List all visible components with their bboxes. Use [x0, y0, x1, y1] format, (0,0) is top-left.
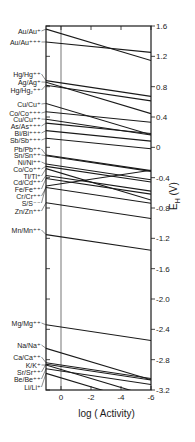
series-label: Bi/Bi⁺⁺⁺ — [15, 130, 41, 137]
series-line — [46, 365, 151, 396]
series-label: Cu/Cu⁺ — [17, 101, 41, 108]
leader-line — [42, 203, 47, 211]
x-axis-label: log ( Activity) — [0, 408, 195, 419]
series-label: S/S⁻⁻ — [22, 200, 41, 207]
y-tick-label: 0.8 — [156, 83, 168, 92]
series-label: Zn/Zn⁺⁺ — [15, 208, 41, 215]
series-line — [46, 203, 151, 219]
series-line — [46, 85, 151, 101]
series-label: Cd/Cd⁺⁺ — [13, 179, 41, 186]
leader-line — [42, 123, 47, 126]
series-line — [46, 29, 151, 60]
electrode-potential-chart: Au/Au⁺Au/Au⁺⁺⁺Hg/Hg⁺⁺Ag/Ag⁺Hg/Hg₂⁺⁺Cu/Cu… — [0, 0, 195, 442]
leader-line — [42, 178, 47, 189]
series-label: Li/Li⁺ — [24, 384, 41, 391]
series-line — [46, 178, 151, 194]
leader-line — [42, 149, 47, 155]
leader-line — [42, 162, 47, 164]
y-tick-label: -1.2 — [156, 234, 170, 243]
series-label: Na/Na⁺ — [17, 342, 41, 349]
y-tick-label: -1.6 — [156, 265, 170, 274]
leader-line — [42, 369, 47, 379]
y-tick-label: 1.6 — [156, 22, 168, 31]
series-line — [46, 235, 151, 251]
leader-line — [42, 357, 47, 363]
series-label: Ag/Ag⁺ — [18, 79, 41, 87]
series-line — [46, 112, 151, 122]
y-axis-label-sub: H — [174, 198, 181, 203]
leader-line — [42, 373, 47, 387]
series-label: As/As⁺⁺⁺ — [11, 123, 41, 130]
series-lines — [46, 29, 151, 405]
series-label: Ni/Ni⁺⁺ — [18, 159, 41, 166]
leader-line — [42, 74, 47, 81]
y-axis-label-unit: (V) — [168, 182, 179, 198]
y-tick-label: -2.0 — [156, 295, 170, 304]
leader-line — [42, 29, 47, 31]
series-label: Fe/Fe⁺⁺ — [15, 186, 41, 193]
series-label: Mn/Mn⁺⁺ — [12, 227, 41, 234]
y-tick-label: 1.2 — [156, 52, 168, 61]
series-line — [46, 42, 151, 52]
leader-line — [42, 103, 47, 104]
x-tick-label: -2 — [87, 393, 95, 402]
leader-line — [42, 345, 47, 348]
leader-line — [42, 230, 47, 235]
x-tick-label: -6 — [147, 393, 155, 402]
series-label: Cr/Cr⁺⁺ — [16, 193, 41, 200]
series-labels: Au/Au⁺Au/Au⁺⁺⁺Hg/Hg⁺⁺Ag/Ag⁺Hg/Hg₂⁺⁺Cu/Cu… — [9, 28, 46, 391]
series-label: Cu/Cu⁺⁺ — [13, 116, 41, 123]
series-line — [46, 348, 151, 379]
series-label: Sn/Sn⁺⁺ — [14, 152, 41, 159]
y-tick-label: -3.2 — [156, 386, 170, 395]
leader-line — [42, 175, 47, 182]
series-line — [46, 103, 151, 134]
series-label: Au/Au⁺⁺⁺ — [10, 39, 41, 46]
leader-line — [42, 138, 47, 140]
series-line — [46, 369, 151, 385]
leader-line — [42, 323, 47, 325]
leader-line — [42, 166, 47, 169]
series-label: Hg/Hg₂⁺⁺ — [10, 87, 41, 95]
series-label: Hg/Hg⁺⁺ — [13, 71, 41, 79]
series-label: Mg/Mg⁺⁺ — [12, 320, 41, 328]
y-tick-label: -2.8 — [156, 356, 170, 365]
y-tick-label: 0.4 — [156, 113, 168, 122]
series-label: K/K⁺ — [26, 362, 41, 369]
plot-border — [46, 26, 151, 390]
series-line — [46, 363, 151, 379]
y-axis-ticks: 1.61.20.80.40-0.4-0.8-1.2-1.6-2.0-2.4-2.… — [46, 22, 170, 395]
x-tick-label: 0 — [59, 393, 64, 402]
series-label: Sb/Sb⁺⁺⁺ — [10, 137, 41, 144]
x-axis-ticks: 0-2-4-6 — [59, 26, 155, 402]
leader-line — [42, 131, 47, 133]
series-line — [46, 81, 151, 97]
y-axis-label: EH (V) — [168, 182, 181, 210]
series-label: Be/Be⁺⁺ — [14, 376, 41, 383]
y-tick-label: -2.4 — [156, 325, 170, 334]
series-label: Co/Co⁺⁺ — [13, 166, 41, 173]
series-line — [46, 82, 151, 113]
leader-line — [42, 169, 47, 176]
plot-frame — [46, 26, 151, 390]
series-label: Au/Au⁺ — [18, 28, 41, 35]
y-axis-label-main: E — [168, 203, 179, 210]
leader-line — [42, 155, 47, 156]
series-label: Ca/Ca⁺⁺ — [13, 354, 41, 361]
y-tick-label: 0 — [156, 143, 161, 152]
leader-line — [42, 112, 47, 113]
x-tick-label: -4 — [117, 393, 125, 402]
series-label: Sr/Sr⁺⁺ — [17, 369, 41, 376]
leader-line — [42, 85, 47, 90]
series-line — [46, 325, 151, 341]
